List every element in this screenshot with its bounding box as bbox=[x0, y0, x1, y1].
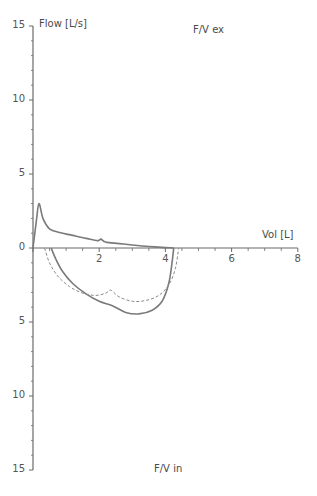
y-axis bbox=[29, 26, 33, 470]
flow-volume-chart bbox=[0, 0, 317, 496]
x-tick-label: 4 bbox=[155, 253, 175, 264]
y-tick-label: 0 bbox=[3, 241, 25, 252]
x-tick-label: 6 bbox=[222, 253, 242, 264]
x-axis-label: Vol [L] bbox=[262, 229, 294, 240]
y-tick-label: 5 bbox=[3, 315, 25, 326]
y-tick-label: 15 bbox=[3, 19, 25, 30]
y-tick-label: 10 bbox=[3, 389, 25, 400]
y-axis-label: Flow [L/s] bbox=[39, 18, 87, 29]
y-tick-label: 5 bbox=[3, 167, 25, 178]
series-expiration-measured bbox=[33, 204, 174, 248]
y-tick-label: 15 bbox=[3, 463, 25, 474]
x-axis bbox=[33, 248, 298, 252]
chart-title-expiration: F/V ex bbox=[193, 24, 224, 35]
x-tick-label: 2 bbox=[89, 253, 109, 264]
x-tick-label: 8 bbox=[288, 253, 308, 264]
y-tick-label: 10 bbox=[3, 93, 25, 104]
chart-title-inspiration: F/V in bbox=[154, 463, 182, 474]
